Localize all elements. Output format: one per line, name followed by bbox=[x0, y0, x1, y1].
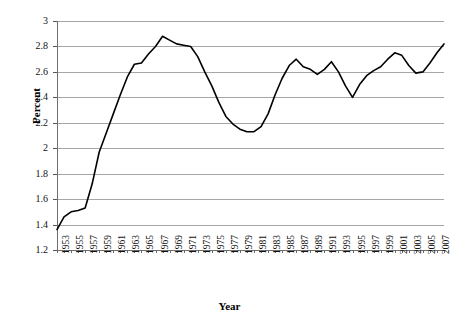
x-tick-label: 1967 bbox=[160, 235, 170, 254]
x-tick-label: 1973 bbox=[202, 235, 212, 254]
x-tick-label: 1961 bbox=[117, 235, 127, 254]
y-tick-mark bbox=[53, 174, 57, 175]
x-tick-mark bbox=[268, 250, 269, 253]
y-tick-mark bbox=[53, 97, 57, 98]
y-tick-label: 1.6 bbox=[0, 194, 48, 204]
y-tick-label: 1.2 bbox=[0, 245, 48, 255]
x-tick-mark bbox=[437, 250, 438, 253]
x-tick-label: 1975 bbox=[216, 235, 226, 254]
gridline bbox=[57, 123, 444, 124]
x-tick-label: 1985 bbox=[286, 235, 296, 254]
gridline bbox=[57, 21, 444, 22]
gridline bbox=[57, 97, 444, 98]
gridline bbox=[57, 46, 444, 47]
x-tick-mark bbox=[324, 250, 325, 253]
x-tick-label: 1993 bbox=[342, 235, 352, 254]
y-tick-mark bbox=[53, 21, 57, 22]
x-tick-mark bbox=[127, 250, 128, 253]
x-tick-label: 1997 bbox=[371, 235, 381, 254]
plot-area bbox=[57, 21, 444, 250]
x-tick-label: 1963 bbox=[131, 235, 141, 254]
x-tick-mark bbox=[57, 250, 58, 253]
x-tick-label: 1989 bbox=[314, 235, 324, 254]
x-tick-label: 1999 bbox=[385, 235, 395, 254]
x-tick-mark bbox=[85, 250, 86, 253]
x-tick-mark bbox=[423, 250, 424, 253]
x-tick-label: 2007 bbox=[441, 235, 451, 254]
x-tick-label: 1981 bbox=[258, 235, 268, 254]
gridline bbox=[57, 174, 444, 175]
y-tick-mark bbox=[53, 225, 57, 226]
x-tick-label: 1987 bbox=[300, 235, 310, 254]
y-tick-mark bbox=[53, 199, 57, 200]
x-tick-mark bbox=[310, 250, 311, 253]
gridline bbox=[57, 225, 444, 226]
y-axis-line bbox=[57, 21, 58, 251]
x-tick-label: 1955 bbox=[75, 235, 85, 254]
y-tick-mark bbox=[53, 123, 57, 124]
x-tick-label: 1977 bbox=[230, 235, 240, 254]
x-tick-mark bbox=[282, 250, 283, 253]
x-tick-label: 1957 bbox=[89, 235, 99, 254]
x-tick-label: 2005 bbox=[427, 235, 437, 254]
y-tick-label: 1.8 bbox=[0, 169, 48, 179]
gridline bbox=[57, 72, 444, 73]
x-tick-mark bbox=[338, 250, 339, 253]
x-tick-label: 1953 bbox=[61, 235, 71, 254]
x-tick-mark bbox=[113, 250, 114, 253]
x-tick-mark bbox=[254, 250, 255, 253]
y-axis-title: Percent bbox=[30, 66, 42, 146]
y-tick-label: 2.8 bbox=[0, 41, 48, 51]
x-tick-mark bbox=[296, 250, 297, 253]
x-tick-label: 2001 bbox=[399, 235, 409, 254]
x-tick-label: 1965 bbox=[145, 235, 155, 254]
x-tick-label: 2003 bbox=[413, 235, 423, 254]
x-axis-title: Year bbox=[0, 300, 459, 312]
y-tick-mark bbox=[53, 72, 57, 73]
x-tick-label: 1991 bbox=[328, 235, 338, 254]
gridline bbox=[57, 199, 444, 200]
x-tick-mark bbox=[240, 250, 241, 253]
x-tick-mark bbox=[226, 250, 227, 253]
x-tick-mark bbox=[156, 250, 157, 253]
x-tick-mark bbox=[353, 250, 354, 253]
chart-container: 1.21.41.61.822.22.42.62.83 1953195519571… bbox=[0, 0, 459, 322]
y-tick-mark bbox=[53, 148, 57, 149]
x-tick-label: 1983 bbox=[272, 235, 282, 254]
x-tick-label: 1979 bbox=[244, 235, 254, 254]
x-tick-label: 1971 bbox=[188, 235, 198, 254]
x-tick-label: 1995 bbox=[357, 235, 367, 254]
x-tick-mark bbox=[99, 250, 100, 253]
gridline bbox=[57, 148, 444, 149]
y-tick-mark bbox=[53, 46, 57, 47]
y-tick-label: 1.4 bbox=[0, 220, 48, 230]
y-tick-label: 3 bbox=[0, 16, 48, 26]
x-tick-label: 1969 bbox=[174, 235, 184, 254]
x-tick-mark bbox=[141, 250, 142, 253]
x-tick-label: 1959 bbox=[103, 235, 113, 254]
x-tick-mark bbox=[71, 250, 72, 253]
